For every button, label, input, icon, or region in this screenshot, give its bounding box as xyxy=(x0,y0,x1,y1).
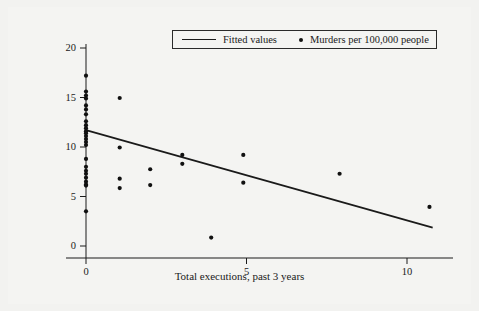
y-tick-label-20: 20 xyxy=(44,43,76,54)
y-tick-label-0: 0 xyxy=(44,241,76,252)
legend-label-murders: Murders per 100,000 people xyxy=(310,34,429,45)
data-point xyxy=(84,107,88,111)
data-point xyxy=(84,74,88,78)
x-axis-title: Total executions, past 3 years xyxy=(0,270,479,282)
data-point xyxy=(241,153,245,157)
data-point xyxy=(84,96,88,100)
axis-lines xyxy=(66,44,453,258)
data-point xyxy=(118,186,122,190)
data-point xyxy=(84,89,88,93)
y-tick-label-5: 5 xyxy=(44,191,76,202)
data-point xyxy=(84,157,88,161)
data-point xyxy=(84,112,88,116)
data-point xyxy=(180,153,184,157)
y-tick-marks xyxy=(80,48,86,246)
data-points xyxy=(84,74,432,240)
x-tick-marks xyxy=(86,258,407,264)
legend-item-fitted-values: Fitted values xyxy=(182,31,277,48)
data-point xyxy=(337,172,341,176)
data-point xyxy=(118,177,122,181)
data-point xyxy=(118,96,122,100)
data-point xyxy=(84,176,88,180)
dot-swatch-icon xyxy=(299,38,303,42)
data-point xyxy=(180,162,184,166)
data-point xyxy=(148,183,152,187)
figure-container: 05101520 0510 Total executions, past 3 y… xyxy=(0,0,479,311)
data-point xyxy=(209,235,213,239)
data-point xyxy=(148,167,152,171)
plot-area: 05101520 0510 Total executions, past 3 y… xyxy=(0,0,479,311)
data-point xyxy=(84,184,88,188)
data-point xyxy=(84,103,88,107)
chart-legend: Fitted values Murders per 100,000 people xyxy=(172,30,437,49)
y-tick-label-10: 10 xyxy=(44,142,76,153)
data-point xyxy=(84,209,88,213)
y-tick-label-15: 15 xyxy=(44,92,76,103)
data-point xyxy=(84,165,88,169)
data-point xyxy=(84,143,88,147)
data-point xyxy=(118,145,122,149)
data-point xyxy=(241,181,245,185)
data-point xyxy=(427,205,431,209)
line-swatch-icon xyxy=(182,39,216,40)
data-point xyxy=(84,119,88,123)
fitted-line-segment xyxy=(86,130,433,228)
fitted-values-line xyxy=(86,130,433,228)
legend-item-murders: Murders per 100,000 people xyxy=(299,31,429,48)
legend-label-fitted-values: Fitted values xyxy=(223,34,277,45)
data-point xyxy=(84,172,88,176)
